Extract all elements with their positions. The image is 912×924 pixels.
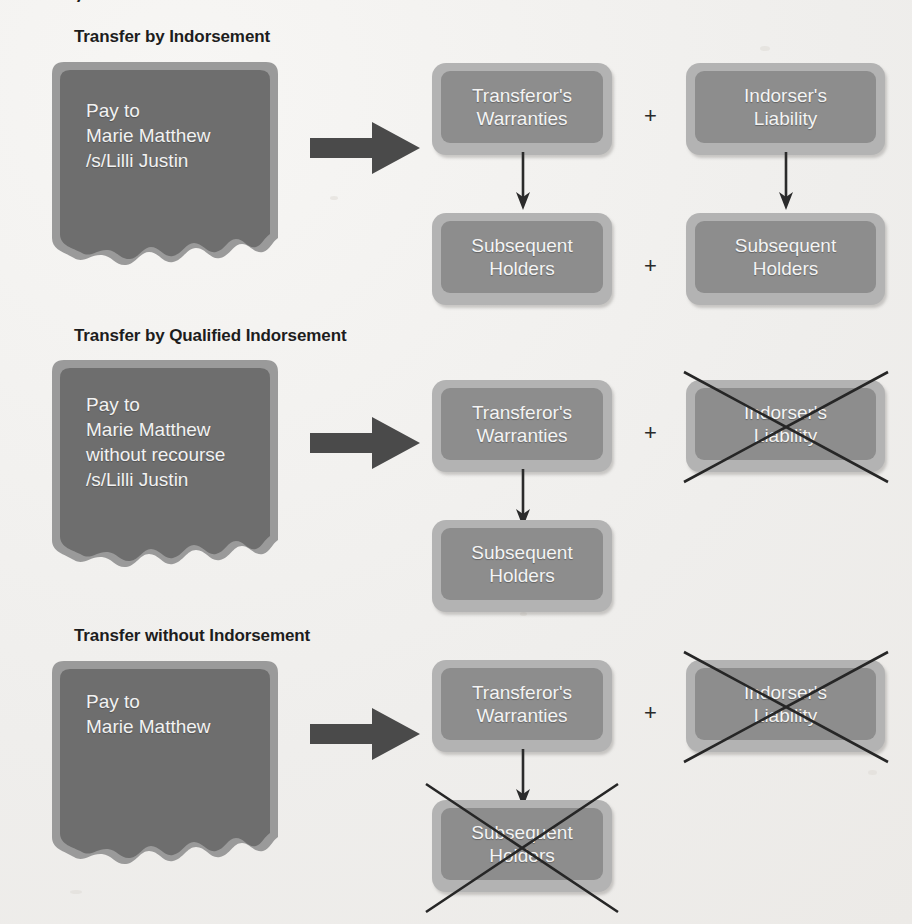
box-label: Subsequent Holders	[441, 528, 603, 600]
box-label: Subsequent Holders	[695, 221, 876, 293]
box-line: Holders	[753, 257, 818, 280]
box-label: Transferor's Warranties	[441, 668, 603, 740]
check-text: Pay to Marie Matthew without recourse /s…	[86, 392, 225, 492]
down-arrow-icon	[512, 152, 534, 218]
box-label: Transferor's Warranties	[441, 71, 603, 143]
box-line: Subsequent	[471, 234, 572, 257]
plus-sign: +	[644, 422, 657, 444]
section-title: Transfer without Indorsement	[74, 626, 310, 646]
box-line: Indorser's	[744, 401, 827, 424]
clipped-text-fragment: y	[74, 0, 83, 2]
box-transferors-warranties[interactable]: Transferor's Warranties	[432, 380, 612, 472]
section-title: Transfer by Indorsement	[74, 27, 270, 47]
check-graphic: Pay to Marie Matthew without recourse /s…	[44, 356, 284, 598]
plus-sign: +	[644, 255, 657, 277]
right-block-arrow-icon	[310, 415, 422, 475]
box-indorsers-liability[interactable]: Indorser's Liability	[686, 380, 885, 472]
box-label: Transferor's Warranties	[441, 388, 603, 460]
box-label: Subsequent Holders	[441, 221, 603, 293]
box-label: Indorser's Liability	[695, 388, 876, 460]
diagram-page: y Transfer by Indorsement Pay to Marie M…	[0, 0, 912, 924]
scan-fleck	[868, 770, 877, 775]
box-label: Subsequent Holders	[441, 808, 603, 880]
box-line: Holders	[489, 844, 554, 867]
box-line: Subsequent	[471, 541, 572, 564]
box-line: Subsequent	[471, 821, 572, 844]
box-line: Indorser's	[744, 84, 827, 107]
scan-fleck	[520, 612, 527, 616]
box-line: Warranties	[476, 107, 567, 130]
check-text: Pay to Marie Matthew	[86, 689, 211, 739]
box-line: Transferor's	[472, 401, 572, 424]
box-line: Transferor's	[472, 681, 572, 704]
box-line: Warranties	[476, 704, 567, 727]
box-line: Indorser's	[744, 681, 827, 704]
box-line: Holders	[489, 257, 554, 280]
scan-fleck	[760, 46, 770, 51]
right-block-arrow-icon	[310, 706, 422, 766]
down-arrow-icon	[775, 152, 797, 218]
box-subsequent-holders-right[interactable]: Subsequent Holders	[686, 213, 885, 305]
box-line: Holders	[489, 564, 554, 587]
box-subsequent-holders-left[interactable]: Subsequent Holders	[432, 800, 612, 892]
box-label: Indorser's Liability	[695, 71, 876, 143]
section-title: Transfer by Qualified Indorsement	[74, 326, 347, 346]
check-graphic: Pay to Marie Matthew	[44, 657, 284, 895]
box-subsequent-holders-left[interactable]: Subsequent Holders	[432, 520, 612, 612]
box-indorsers-liability[interactable]: Indorser's Liability	[686, 660, 885, 752]
check-graphic: Pay to Marie Matthew /s/Lilli Justin	[44, 58, 284, 296]
right-block-arrow-icon	[310, 120, 422, 180]
plus-sign: +	[644, 702, 657, 724]
box-line: Liability	[754, 704, 817, 727]
box-transferors-warranties[interactable]: Transferor's Warranties	[432, 63, 612, 155]
box-line: Transferor's	[472, 84, 572, 107]
box-line: Liability	[754, 424, 817, 447]
box-line: Liability	[754, 107, 817, 130]
box-line: Warranties	[476, 424, 567, 447]
check-shape-svg	[44, 58, 284, 296]
scan-fleck	[330, 196, 338, 200]
box-subsequent-holders-left[interactable]: Subsequent Holders	[432, 213, 612, 305]
plus-sign: +	[644, 105, 657, 127]
box-indorsers-liability[interactable]: Indorser's Liability	[686, 63, 885, 155]
check-text: Pay to Marie Matthew /s/Lilli Justin	[86, 98, 211, 173]
box-transferors-warranties[interactable]: Transferor's Warranties	[432, 660, 612, 752]
box-line: Subsequent	[735, 234, 836, 257]
box-label: Indorser's Liability	[695, 668, 876, 740]
